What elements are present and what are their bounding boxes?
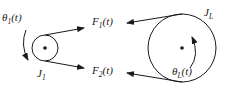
theta1-label: θ1(t) <box>2 11 22 26</box>
F1-label: F1(t) <box>91 15 113 30</box>
theta1-rotation-arrow-icon <box>23 30 28 60</box>
force1-arrow-large-icon <box>127 14 182 23</box>
force2-arrow-small-icon <box>45 61 84 68</box>
thetaL-label: θL(t) <box>172 65 192 80</box>
small-pulley <box>32 35 58 61</box>
belt-pulley-diagram: θ1(t) J1 F1(t) F2(t) JL θL(t) <box>0 0 227 86</box>
F2-label: F2(t) <box>91 64 113 79</box>
thetaL-rotation-arrow-icon <box>190 37 196 68</box>
J1-label: J1 <box>37 67 46 82</box>
large-pulley-center-dot <box>180 46 184 50</box>
small-pulley-center-dot <box>43 46 47 50</box>
JL-label: JL <box>204 6 213 21</box>
force1-arrow-small-icon <box>45 28 84 35</box>
